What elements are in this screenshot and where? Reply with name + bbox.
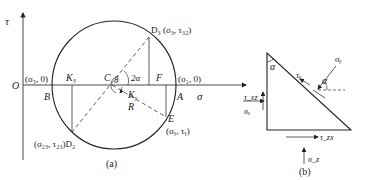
diameter-d3-d2 [72,37,149,132]
figure-b: α α τᵧ σᵧ τ_xz σₓ τ_zx σ_z (b) [243,53,351,178]
two-alpha-angle-label: 2α [131,73,141,83]
tau-axis-label: τ [5,15,10,27]
radius-c-e [112,85,166,117]
sigma1-zero-label: (σ₁, 0) [178,74,201,84]
caption-a: (a) [106,158,117,170]
point-c-label: C [104,72,111,83]
sigma-y-label: σᵧ [335,54,342,64]
sigma-axis-label: σ [197,90,203,102]
point-e-label: E [167,113,174,124]
tau-xz-label: τ_xz [244,93,258,102]
tau-zx-label: τ_zx [320,133,334,142]
alpha-right-label: α [322,75,328,86]
point-ky-label: Ky [127,89,138,101]
point-b-label: B [44,91,50,102]
angle-2alpha-arc [124,71,129,85]
sigma3-zero-label: (σ₃, 0) [25,74,48,84]
stress-element-triangle [267,53,351,130]
d2-label: (σ₂₃, τ₂₃)D₂ [34,139,75,149]
figure-a: τ O B A σ C F E K3 Ky R θ 2α (σ₃, 0) (σ₁… [5,13,246,170]
point-a-label: A [176,91,184,102]
e-coord-label: (σᵧ, τᵧ) [166,126,190,137]
point-k3-label: K3 [65,72,76,84]
d3-label: D₃ (σ₃, τ₃₂) [151,25,191,35]
mohr-circle-figure: τ O B A σ C F E K3 Ky R θ 2α (σ₃, 0) (σ₁… [0,0,370,180]
point-f-label: F [155,72,163,83]
radius-r-label: R [127,101,134,112]
alpha-top-label: α [270,61,276,72]
tau-y-label: τᵧ [296,70,301,80]
sigma-z-label: σ_z [308,155,320,164]
origin-label: O [12,80,19,91]
caption-b: (b) [299,166,311,178]
theta-angle-label: θ [114,75,119,85]
sigma-x-label: σₓ [244,107,250,116]
